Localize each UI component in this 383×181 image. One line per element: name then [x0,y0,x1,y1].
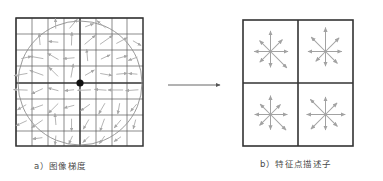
caption-panel-a: a）图像梯度 [34,160,87,172]
sift-descriptor-figure [0,0,383,181]
caption-panel-b: b）特征点描述子 [260,158,332,170]
keypoint-marker [76,79,83,86]
arrow [13,90,27,91]
